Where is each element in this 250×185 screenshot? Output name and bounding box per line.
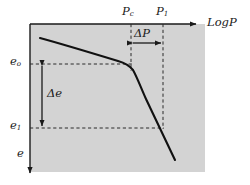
e-initial-label: eo	[10, 56, 21, 68]
p-critical-label: Pc	[122, 6, 134, 18]
delta-e-label: Δe	[47, 88, 62, 100]
delta-p-label: ΔP	[134, 28, 150, 40]
p-one-label: P1	[156, 6, 168, 18]
compression-curve-figure: Pc P1 LogP ΔP eo e1 e Δe	[0, 0, 250, 185]
y-axis-label: e	[17, 148, 24, 160]
x-axis-label: LogP	[207, 17, 237, 29]
e-one-label: e1	[10, 120, 21, 132]
